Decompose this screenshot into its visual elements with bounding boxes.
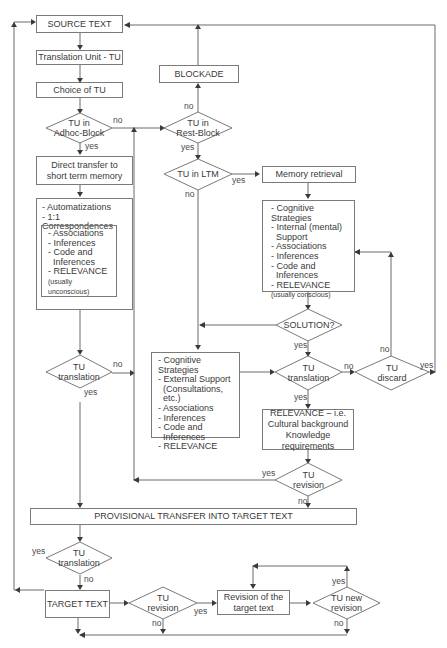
revision-mid-label: TU revision [275,468,342,492]
revision-target-label: Revision of the target text [224,592,284,614]
source-text-label: SOURCE TEXT [48,19,112,30]
translation-left-label: TU translation [46,360,112,384]
edge-label-yes: yes [332,577,345,586]
adhoc-block-label: TU in Adhoc-Block [46,116,112,140]
revision-bottom-label: TU revision [129,591,197,615]
edge-label-no: no [334,619,343,628]
edge-label-yes: yes [85,142,98,151]
external-support-list: - Cognitive Strategies - External Suppor… [158,356,233,452]
internal-support-box: - Cognitive Strategies - Internal (menta… [262,200,355,292]
note-text: (usually unconscious) [48,277,110,296]
blockade-box: BLOCKADE [159,65,239,83]
choice-of-tu-label: Choice of TU [53,85,105,96]
direct-transfer-box: Direct transfer to short term memory [36,156,133,185]
edge-label-no: no [113,360,122,369]
provisional-transfer-label: PROVISIONAL TRANSFER INTO TARGET TEXT [94,511,293,522]
discard-label: TU discard [355,361,429,385]
edge-label-no: no [113,116,122,125]
relevance-line: Knowledge requirements [263,430,353,452]
revision-target-box: Revision of the target text [217,590,290,615]
translation-unit-box: Translation Unit - TU [36,50,123,65]
list-item: - Cognitive Strategies [158,356,233,375]
edge-label-yes: yes [262,469,275,478]
list-item: - RELEVANCE [271,281,346,291]
list-item: - RELEVANCE [48,267,110,277]
source-text-box: SOURCE TEXT [36,15,123,33]
edge-label-yes: yes [294,341,307,350]
memory-retrieval-label: Memory retrieval [275,169,342,180]
edge-label-yes: yes [420,361,433,370]
memory-retrieval-box: Memory retrieval [262,166,356,183]
edge-label-yes: yes [32,547,45,556]
edge-label-no: no [298,497,307,506]
edge-label-yes: yes [194,607,207,616]
ltm-label: TU in LTM [164,168,232,180]
target-text-label: TARGET TEXT [47,599,108,610]
provisional-transfer-box: PROVISIONAL TRANSFER INTO TARGET TEXT [30,508,357,525]
note-text: (usually conscious) [271,290,346,300]
solution-label: SOLUTION? [276,319,342,331]
blockade-label: BLOCKADE [174,69,223,80]
relevance-box: RELEVANCE – i.e. Cultural background Kno… [262,409,354,450]
new-revision-label: TU new revision [313,591,380,615]
choice-of-tu-box: Choice of TU [36,82,123,98]
edge-label-no: no [344,362,353,371]
relevance-line: RELEVANCE – i.e. [270,408,346,419]
relevance-line: Cultural background [268,419,349,430]
translation-unit-label: Translation Unit - TU [38,52,121,63]
edge-label-no: no [84,575,93,584]
list-item: - RELEVANCE [158,442,233,452]
edge-label-no: no [184,102,193,111]
unconscious-processes-box: - Associations - Inferences - Code and I… [41,225,117,297]
external-support-box: - Cognitive Strategies - External Suppor… [151,352,240,438]
translation-mid-label: TU translation [275,361,342,385]
internal-support-list: - Cognitive Strategies - Internal (menta… [271,204,346,300]
edge-label-no: no [152,619,161,628]
edge-label-no: no [380,345,389,354]
edge-label-yes: yes [84,388,97,397]
edge-label-yes: yes [294,393,307,402]
list-item: - Cognitive Strategies [271,204,346,223]
target-text-box: TARGET TEXT [45,590,110,618]
edge-label-yes: yes [232,176,245,185]
direct-transfer-label: Direct transfer to short term memory [45,160,124,182]
edge-label-no: no [185,190,194,199]
list-item: (Consultations, etc.) [158,385,233,404]
rest-block-label: TU in Rest-Block [164,116,232,140]
edge-label-yes: yes [181,143,194,152]
translation-bottom-label: TU translation [46,546,112,570]
